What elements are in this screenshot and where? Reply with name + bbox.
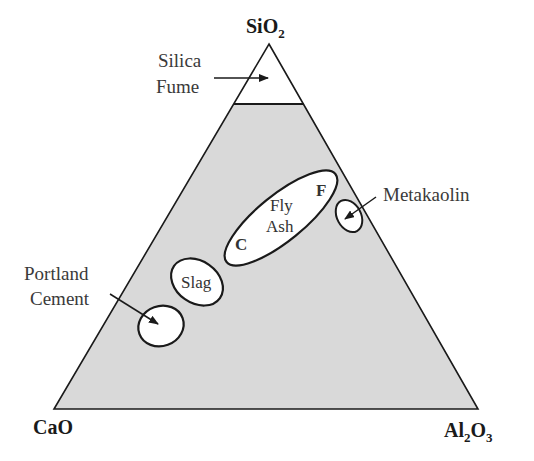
silica-fume-region [234,44,304,104]
silica-fume-label-line2: Fume [156,76,199,97]
vertex-label-al2o3: Al2O3 [444,419,493,445]
vertex-label-cao: CaO [33,416,73,438]
fly-ash-class-f-label: F [316,181,326,200]
slag-label: Slag [181,273,212,292]
portland-cement-label-line1: Portland [24,263,89,284]
fly-ash-label-line1: Fly [270,196,293,215]
fly-ash-class-c-label: C [235,235,247,254]
ternary-diagram: SiO2 CaO Al2O3 Silica Fume Metakaolin Fl… [0,0,534,461]
vertex-label-sio2: SiO2 [246,15,285,41]
metakaolin-label: Metakaolin [383,184,470,205]
fly-ash-label-line2: Ash [266,217,294,236]
portland-cement-label-line2: Cement [30,288,90,309]
ternary-diagram-svg: SiO2 CaO Al2O3 Silica Fume Metakaolin Fl… [0,0,534,461]
silica-fume-label-line1: Silica [158,50,202,71]
